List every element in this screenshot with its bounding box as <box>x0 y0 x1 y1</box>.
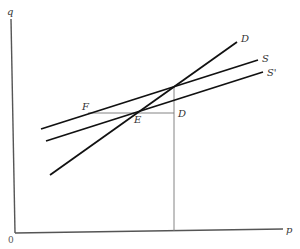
point-f-label: F <box>81 101 90 112</box>
supply-curve <box>41 60 258 129</box>
supply-demand-diagram: q p 0 D S S' F E D <box>0 0 300 249</box>
p-axis <box>15 229 283 233</box>
point-d-label: D <box>177 108 186 119</box>
origin-label: 0 <box>8 235 14 245</box>
supply-curve-label: S <box>262 53 269 64</box>
point-e-label: E <box>133 114 142 125</box>
q-axis-label: q <box>7 6 13 17</box>
demand-curve <box>50 42 237 175</box>
supply-shifted-curve <box>46 72 263 141</box>
p-axis-label: p <box>286 224 293 235</box>
q-axis <box>11 19 15 233</box>
supply-shifted-curve-label: S' <box>267 67 277 78</box>
demand-curve-label: D <box>240 33 249 44</box>
